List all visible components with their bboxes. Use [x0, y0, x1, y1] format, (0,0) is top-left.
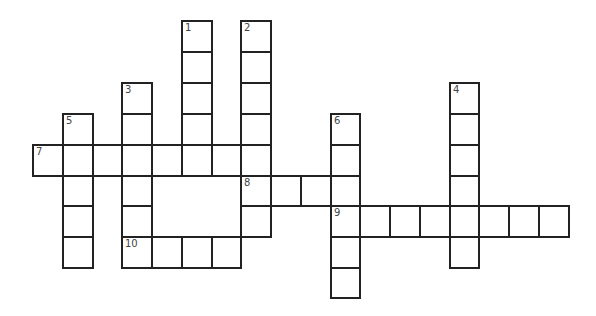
crossword-cell[interactable]: 9: [330, 205, 361, 238]
cell-input[interactable]: [183, 115, 211, 144]
crossword-cell[interactable]: [151, 144, 183, 177]
crossword-cell[interactable]: [181, 82, 213, 115]
cell-input[interactable]: [242, 84, 270, 113]
cell-input[interactable]: [183, 238, 211, 267]
crossword-cell[interactable]: [121, 144, 153, 177]
cell-input[interactable]: [391, 207, 419, 236]
cell-input[interactable]: [34, 146, 62, 175]
cell-input[interactable]: [94, 146, 121, 175]
crossword-cell[interactable]: [181, 51, 213, 84]
cell-input[interactable]: [64, 207, 92, 236]
cell-input[interactable]: [451, 115, 478, 144]
crossword-cell[interactable]: 8: [240, 175, 272, 207]
crossword-cell[interactable]: [359, 205, 391, 238]
crossword-cell[interactable]: [211, 236, 242, 269]
crossword-cell[interactable]: [449, 144, 480, 177]
cell-input[interactable]: [64, 146, 92, 175]
cell-input[interactable]: [64, 177, 92, 205]
crossword-cell[interactable]: [449, 113, 480, 146]
cell-input[interactable]: [123, 146, 151, 175]
crossword-cell[interactable]: 10: [121, 236, 153, 269]
crossword-cell[interactable]: 7: [32, 144, 64, 177]
crossword-cell[interactable]: [330, 144, 361, 177]
crossword-cell[interactable]: [538, 205, 570, 238]
crossword-cell[interactable]: [121, 113, 153, 146]
crossword-cell[interactable]: [181, 236, 213, 269]
cell-input[interactable]: [123, 84, 151, 113]
cell-input[interactable]: [451, 238, 478, 267]
crossword-cell[interactable]: [330, 175, 361, 207]
cell-input[interactable]: [242, 115, 270, 144]
cell-input[interactable]: [242, 207, 270, 236]
crossword-cell[interactable]: 4: [449, 82, 480, 115]
cell-input[interactable]: [332, 207, 359, 236]
crossword-cell[interactable]: [389, 205, 421, 238]
cell-input[interactable]: [451, 177, 478, 205]
crossword-cell[interactable]: [419, 205, 451, 238]
crossword-cell[interactable]: [181, 144, 213, 177]
crossword-cell[interactable]: [330, 236, 361, 269]
crossword-cell[interactable]: [151, 236, 183, 269]
cell-input[interactable]: [332, 177, 359, 205]
cell-input[interactable]: [451, 207, 478, 236]
cell-input[interactable]: [332, 146, 359, 175]
cell-input[interactable]: [242, 177, 270, 205]
crossword-cell[interactable]: 1: [181, 20, 213, 53]
crossword-cell[interactable]: [240, 205, 272, 238]
cell-input[interactable]: [451, 146, 478, 175]
cell-input[interactable]: [183, 84, 211, 113]
cell-input[interactable]: [332, 269, 359, 297]
crossword-cell[interactable]: [508, 205, 540, 238]
cell-input[interactable]: [183, 146, 211, 175]
crossword-cell[interactable]: 2: [240, 20, 272, 53]
cell-input[interactable]: [242, 53, 270, 82]
cell-input[interactable]: [123, 115, 151, 144]
cell-input[interactable]: [153, 146, 181, 175]
cell-input[interactable]: [361, 207, 389, 236]
cell-input[interactable]: [272, 177, 300, 205]
cell-input[interactable]: [332, 238, 359, 267]
crossword-cell[interactable]: [300, 175, 332, 207]
crossword-cell[interactable]: [211, 144, 242, 177]
crossword-cell[interactable]: [449, 175, 480, 207]
cell-input[interactable]: [183, 22, 211, 51]
crossword-cell[interactable]: [240, 51, 272, 84]
crossword-cell[interactable]: [62, 205, 94, 238]
cell-input[interactable]: [451, 84, 478, 113]
cell-input[interactable]: [480, 207, 508, 236]
crossword-cell[interactable]: 5: [62, 113, 94, 146]
crossword-cell[interactable]: [62, 236, 94, 269]
crossword-cell[interactable]: [478, 205, 510, 238]
crossword-cell[interactable]: 3: [121, 82, 153, 115]
crossword-cell[interactable]: [330, 267, 361, 299]
cell-input[interactable]: [242, 146, 270, 175]
crossword-cell[interactable]: [240, 113, 272, 146]
cell-input[interactable]: [64, 238, 92, 267]
crossword-cell[interactable]: [92, 144, 123, 177]
cell-input[interactable]: [64, 115, 92, 144]
cell-input[interactable]: [540, 207, 568, 236]
cell-input[interactable]: [332, 115, 359, 144]
crossword-cell[interactable]: [240, 144, 272, 177]
cell-input[interactable]: [153, 238, 181, 267]
crossword-cell[interactable]: [62, 175, 94, 207]
crossword-cell[interactable]: [449, 205, 480, 238]
crossword-cell[interactable]: [240, 82, 272, 115]
cell-input[interactable]: [183, 53, 211, 82]
crossword-cell[interactable]: 6: [330, 113, 361, 146]
crossword-cell[interactable]: [181, 113, 213, 146]
cell-input[interactable]: [213, 238, 240, 267]
cell-input[interactable]: [421, 207, 449, 236]
cell-input[interactable]: [213, 146, 240, 175]
crossword-cell[interactable]: [121, 205, 153, 238]
cell-input[interactable]: [510, 207, 538, 236]
crossword-cell[interactable]: [121, 175, 153, 207]
cell-input[interactable]: [123, 177, 151, 205]
crossword-cell[interactable]: [270, 175, 302, 207]
cell-input[interactable]: [123, 238, 151, 267]
crossword-cell[interactable]: [449, 236, 480, 269]
cell-input[interactable]: [123, 207, 151, 236]
cell-input[interactable]: [302, 177, 330, 205]
crossword-cell[interactable]: [62, 144, 94, 177]
cell-input[interactable]: [242, 22, 270, 51]
